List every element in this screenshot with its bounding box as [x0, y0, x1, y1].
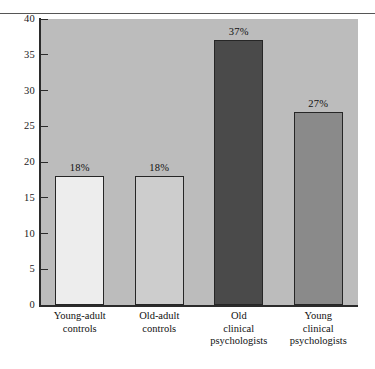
top-horizontal-rule [0, 13, 375, 14]
x-axis-category-label: Young-adultcontrols [36, 310, 124, 335]
bar-chart-figure: 0510152025303540 18%18%37%27% Young-adul… [0, 0, 375, 369]
category-label-line: Young-adult [36, 310, 124, 323]
y-axis-tick-label: 10 [5, 229, 35, 240]
y-axis-tick-label: 0 [5, 300, 35, 311]
y-axis-tick [41, 126, 48, 127]
bar-value-label: 27% [288, 98, 348, 109]
y-axis-tick [41, 197, 48, 198]
x-axis-category-label: Oldclinicalpsychologists [195, 310, 283, 348]
category-label-line: clinical [195, 323, 283, 336]
x-axis-line [39, 305, 358, 307]
y-axis-tick-label: 35 [5, 50, 35, 61]
y-axis-tick-label: 30 [5, 86, 35, 97]
category-label-line: controls [115, 323, 203, 336]
y-axis-tick [41, 269, 48, 270]
bar-value-label: 18% [50, 162, 110, 173]
category-label-line: controls [36, 323, 124, 336]
y-axis-tick [41, 19, 48, 20]
y-axis-tick [41, 54, 48, 55]
x-axis-category-label: Old-adultcontrols [115, 310, 203, 335]
bar-value-label: 37% [209, 26, 269, 37]
y-axis-tick [41, 162, 48, 163]
y-axis-tick-label: 40 [5, 14, 35, 25]
y-axis-tick [41, 305, 48, 306]
bar-value-label: 18% [129, 162, 189, 173]
category-label-line: psychologists [274, 335, 362, 348]
bar [214, 40, 263, 305]
bar [294, 112, 343, 305]
category-label-line: Old-adult [115, 310, 203, 323]
category-label-line: clinical [274, 323, 362, 336]
y-axis-tick-label: 20 [5, 157, 35, 168]
y-axis-tick-label: 25 [5, 121, 35, 132]
bar [135, 176, 184, 305]
bar [55, 176, 104, 305]
category-label-line: Young [274, 310, 362, 323]
y-axis-line [39, 18, 41, 307]
y-axis-tick-label: 5 [5, 264, 35, 275]
category-label-line: Old [195, 310, 283, 323]
y-axis-tick [41, 90, 48, 91]
x-axis-category-label: Youngclinicalpsychologists [274, 310, 362, 348]
y-axis-tick-label: 15 [5, 193, 35, 204]
y-axis-tick [41, 233, 48, 234]
category-label-line: psychologists [195, 335, 283, 348]
